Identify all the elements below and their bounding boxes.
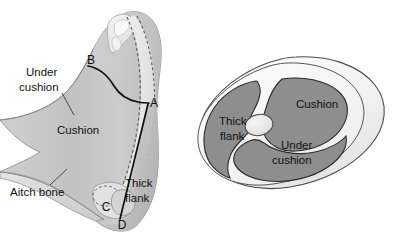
cross-under-cushion-label-line1: Under xyxy=(281,139,312,151)
point-label-d: D xyxy=(118,218,127,232)
side-view-panel: A B C D Under cushion Cushion Aitch bone… xyxy=(0,12,161,233)
cross-cushion-label: Cushion xyxy=(296,98,338,110)
point-label-b: B xyxy=(87,53,95,67)
point-label-a: A xyxy=(150,96,158,110)
cross-thick-flank-label-line1: Thick xyxy=(219,115,247,127)
point-label-c: C xyxy=(102,200,111,214)
aitch-bone-label: Aitch bone xyxy=(10,186,64,198)
under-cushion-label-line2: cushion xyxy=(19,81,59,93)
figure-root: A B C D Under cushion Cushion Aitch bone… xyxy=(0,0,397,238)
thick-flank-label-line1: Thick xyxy=(125,177,153,189)
thick-flank-label-line2: flank xyxy=(125,192,150,204)
beef-round-diagram: A B C D Under cushion Cushion Aitch bone… xyxy=(0,0,397,238)
cross-section-panel: Cushion Under cushion Thick flank xyxy=(198,57,384,189)
under-cushion-label-line1: Under xyxy=(26,66,57,78)
cushion-label: Cushion xyxy=(57,124,99,136)
cross-under-cushion-label-line2: cushion xyxy=(272,154,312,166)
cross-thick-flank-label-line2: flank xyxy=(220,130,245,142)
